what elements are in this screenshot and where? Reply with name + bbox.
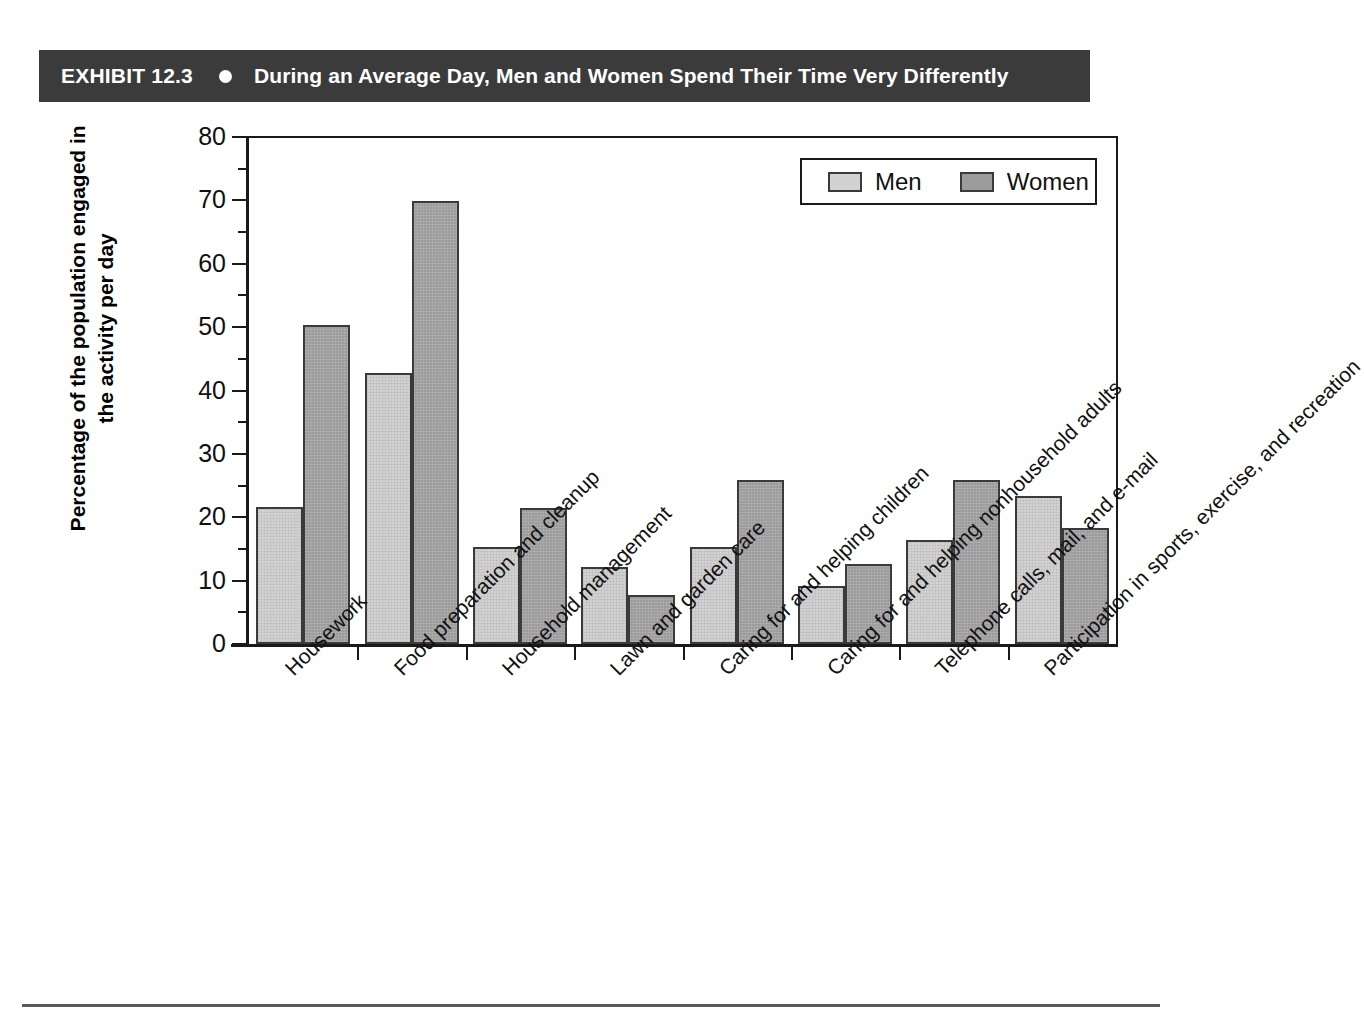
y-axis-label-10: 10: [166, 568, 226, 593]
bar-men-0: [256, 507, 303, 644]
y-axis-minor-tick-35: [238, 421, 247, 423]
y-axis-title-line1: Percentage of the population engaged in: [66, 125, 89, 531]
y-axis-tick-labels: 01020304050607080: [160, 0, 226, 1023]
legend-swatch-women: [960, 172, 994, 192]
y-axis-minor-tick-5: [238, 611, 247, 613]
y-axis-label-20: 20: [166, 504, 226, 529]
y-axis-tick-10: [232, 580, 247, 582]
x-axis-tick-6: [1008, 647, 1010, 660]
y-axis-tick-80: [232, 136, 247, 138]
x-axis-tick-0: [357, 647, 359, 660]
y-axis-tick-60: [232, 263, 247, 265]
y-axis-minor-tick-15: [238, 548, 247, 550]
y-axis-tick-30: [232, 453, 247, 455]
x-axis-line: [231, 644, 1118, 647]
legend-swatch-men: [828, 172, 862, 192]
bar-men-1: [365, 373, 412, 644]
y-axis-title: Percentage of the population engaged in …: [64, 118, 121, 538]
y-axis-label-70: 70: [166, 187, 226, 212]
y-axis-minor-tick-65: [238, 231, 247, 233]
y-axis-tick-0: [232, 643, 247, 645]
y-axis-tick-40: [232, 390, 247, 392]
legend-item-women[interactable]: Women: [960, 168, 1089, 196]
y-axis-label-30: 30: [166, 441, 226, 466]
y-axis-title-line2: the activity per day: [94, 233, 117, 423]
legend-item-men[interactable]: Men: [828, 168, 922, 196]
y-axis-label-50: 50: [166, 314, 226, 339]
x-axis-tick-3: [683, 647, 685, 660]
legend-label-men: Men: [875, 168, 922, 196]
bar-women-0: [303, 325, 350, 644]
y-axis-minor-tick-75: [238, 168, 247, 170]
y-axis-label-40: 40: [166, 378, 226, 403]
y-axis-tick-70: [232, 199, 247, 201]
y-axis-minor-tick-55: [238, 294, 247, 296]
exhibit-title: During an Average Day, Men and Women Spe…: [254, 64, 1009, 88]
x-axis-tick-5: [899, 647, 901, 660]
y-axis-label-80: 80: [166, 124, 226, 149]
x-axis-tick-4: [791, 647, 793, 660]
y-axis-minor-tick-25: [238, 485, 247, 487]
bar-chart-plot-area: [249, 138, 1116, 644]
page-bottom-rule: [22, 1004, 1160, 1007]
y-axis-minor-tick-45: [238, 358, 247, 360]
y-axis-label-60: 60: [166, 251, 226, 276]
y-axis-tick-20: [232, 516, 247, 518]
x-axis-tick-1: [466, 647, 468, 660]
chart-legend: Men Women: [800, 158, 1097, 205]
bar-women-1: [412, 201, 459, 644]
legend-label-women: Women: [1007, 168, 1089, 196]
y-axis-tick-50: [232, 326, 247, 328]
x-axis-tick-2: [574, 647, 576, 660]
y-axis-label-0: 0: [166, 631, 226, 656]
